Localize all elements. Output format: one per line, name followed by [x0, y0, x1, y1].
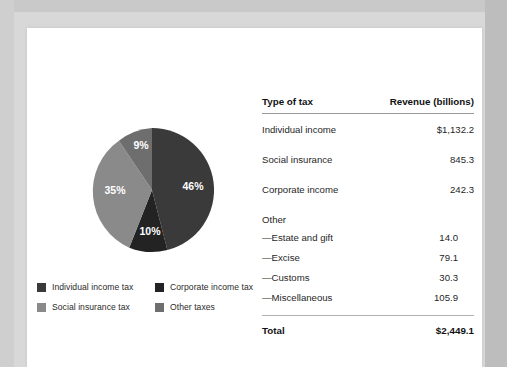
- pie-label-other-taxes: 9%: [133, 139, 149, 151]
- table-cell-label-estate-and-gift: —Estate and gift: [262, 232, 333, 243]
- table-cell-value-social-insurance: 845.3: [450, 154, 474, 165]
- legend-item-corporate-income-tax: Corporate income tax: [155, 282, 269, 292]
- table-cell-value-excise: 79.1: [439, 252, 474, 263]
- table-cell-label-corporate-income: Corporate income: [262, 184, 338, 195]
- table-cell-value-corporate-income: 242.3: [450, 184, 474, 195]
- legend-label-other-taxes: Other taxes: [170, 302, 215, 312]
- table-row-estate-and-gift: —Estate and gift 14.0: [262, 227, 474, 247]
- table-row-social-insurance: Social insurance 845.3: [262, 144, 474, 174]
- pie-label-corporate-income: 10%: [139, 225, 161, 237]
- table-cell-label-miscellaneous: —Miscellaneous: [262, 292, 332, 303]
- table-cell-label-social-insurance: Social insurance: [262, 154, 332, 165]
- table-row-corporate-income: Corporate income 242.3: [262, 174, 474, 204]
- table-row-customs: —Customs 30.3: [262, 267, 474, 287]
- table-header-type-of-tax: Type of tax: [262, 96, 313, 107]
- chart-legend: Individual income tax Corporate income t…: [37, 282, 269, 312]
- legend-swatch-social-insurance-icon: [37, 303, 46, 312]
- table-cell-label-customs: —Customs: [262, 272, 309, 283]
- table-row-excise: —Excise 79.1: [262, 247, 474, 267]
- table-cell-label-excise: —Excise: [262, 252, 300, 263]
- legend-swatch-other-taxes-icon: [155, 303, 164, 312]
- table-cell-label-other: Other: [262, 214, 286, 225]
- tax-revenue-table: Type of tax Revenue (billions) Individua…: [262, 96, 474, 336]
- pie-label-individual-income: 46%: [182, 180, 204, 192]
- legend-item-other-taxes: Other taxes: [155, 302, 269, 312]
- table-cell-value-estate-and-gift: 14.0: [439, 232, 474, 243]
- legend-label-social-insurance-tax: Social insurance tax: [52, 302, 130, 312]
- scan-edge-left: [0, 0, 14, 367]
- table-cell-value-individual-income: $1,132.2: [437, 124, 474, 135]
- legend-label-corporate-income-tax: Corporate income tax: [170, 282, 253, 292]
- table-cell-label-total: Total: [262, 325, 285, 336]
- table-row-total: Total $2,449.1: [262, 316, 474, 336]
- table-cell-label-individual-income: Individual income: [262, 124, 336, 135]
- pie-chart-svg: 46% 10% 35% 9%: [37, 90, 267, 290]
- legend-label-individual-income-tax: Individual income tax: [52, 282, 133, 292]
- table-header-revenue: Revenue (billions): [390, 96, 474, 107]
- table-row-individual-income: Individual income $1,132.2: [262, 114, 474, 144]
- table-cell-value-total: $2,449.1: [436, 325, 474, 336]
- scanned-page-background: 46% 10% 35% 9% Individual income tax Cor…: [0, 0, 507, 367]
- legend-swatch-individual-income-icon: [37, 283, 46, 292]
- table-row-other-group: Other: [262, 204, 474, 227]
- scan-edge-right: [485, 0, 507, 367]
- legend-swatch-corporate-income-icon: [155, 283, 164, 292]
- table-row-miscellaneous: —Miscellaneous 105.9: [262, 287, 474, 307]
- pie-label-social-insurance: 35%: [104, 184, 126, 196]
- table-header-row: Type of tax Revenue (billions): [262, 96, 474, 113]
- scan-edge-top: [0, 0, 507, 12]
- tax-revenue-figure: 46% 10% 35% 9% Individual income tax Cor…: [27, 28, 482, 367]
- pie-chart: 46% 10% 35% 9%: [37, 90, 267, 290]
- table-cell-value-miscellaneous: 105.9: [434, 292, 474, 303]
- page-sheet: 46% 10% 35% 9% Individual income tax Cor…: [27, 28, 482, 367]
- table-cell-value-customs: 30.3: [439, 272, 474, 283]
- legend-item-individual-income-tax: Individual income tax: [37, 282, 155, 292]
- legend-item-social-insurance-tax: Social insurance tax: [37, 302, 155, 312]
